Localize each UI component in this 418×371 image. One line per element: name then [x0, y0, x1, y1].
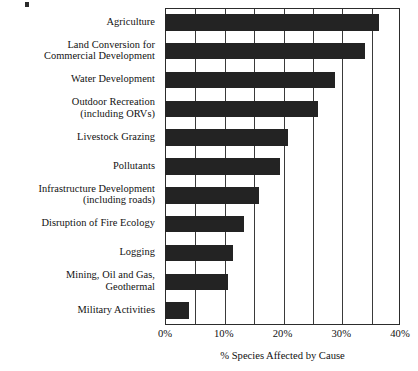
category-label: Water Development: [0, 73, 155, 84]
bar: [165, 158, 280, 175]
category-label: Pollutants: [0, 160, 155, 171]
scan-artifact-speck: [25, 2, 29, 7]
x-axis-title: % Species Affected by Cause: [165, 349, 400, 362]
bar: [165, 14, 379, 31]
category-label-column: AgricultureLand Conversion for Commercia…: [0, 8, 160, 325]
category-label: Mining, Oil and Gas, Geothermal: [0, 269, 155, 292]
category-label: Land Conversion for Commercial Developme…: [0, 39, 155, 62]
bar-chart: AgricultureLand Conversion for Commercia…: [0, 0, 418, 371]
bar: [165, 302, 189, 319]
bar: [165, 216, 244, 233]
x-axis-tick-label: 0%: [158, 327, 172, 340]
category-label: Military Activities: [0, 304, 155, 315]
category-label: Infrastructure Development (including ro…: [0, 183, 155, 206]
bar: [165, 101, 318, 118]
x-axis-tick-labels: 0%10%20%30%40%: [165, 327, 400, 345]
category-label: Disruption of Fire Ecology: [0, 217, 155, 228]
bar: [165, 245, 233, 262]
x-axis-tick-label: 10%: [214, 327, 233, 340]
category-label: Logging: [0, 246, 155, 257]
bar: [165, 129, 288, 146]
bar: [165, 43, 365, 60]
x-axis-tick-label: 40%: [390, 327, 409, 340]
x-axis-tick-label: 20%: [273, 327, 292, 340]
category-label: Outdoor Recreation (including ORVs): [0, 96, 155, 119]
category-label: Agriculture: [0, 16, 155, 27]
bar: [165, 72, 335, 89]
category-label: Livestock Grazing: [0, 131, 155, 142]
x-axis-tick-label: 30%: [332, 327, 351, 340]
bar: [165, 274, 228, 291]
bars-layer: [165, 8, 400, 325]
bar: [165, 187, 259, 204]
